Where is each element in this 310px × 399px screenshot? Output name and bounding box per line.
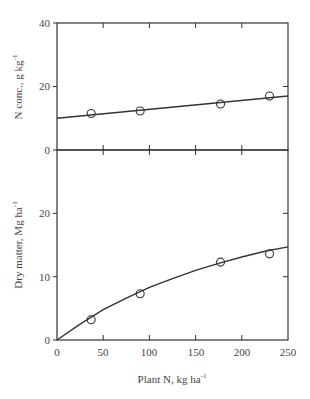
fit-line xyxy=(57,247,288,340)
upper-plot-frame xyxy=(57,23,288,150)
upper-ytick-20: 20 xyxy=(39,80,51,92)
x-axis-title: Plant N, kg ha-1 xyxy=(138,372,207,385)
xtick-200: 200 xyxy=(234,346,251,358)
xtick-100: 100 xyxy=(141,346,158,358)
upper-y-axis-title: N conc., g kg-1 xyxy=(11,54,24,119)
xtick-250: 250 xyxy=(280,346,297,358)
upper-ytick-0: 0 xyxy=(45,144,51,156)
data-point-circle xyxy=(217,100,225,108)
upper-data-series xyxy=(57,92,288,118)
data-point-circle xyxy=(266,92,274,100)
lower-ytick-20: 20 xyxy=(39,207,51,219)
data-point-circle xyxy=(87,109,95,117)
xtick-150: 150 xyxy=(188,346,205,358)
lower-ytick-10: 10 xyxy=(39,271,51,283)
axis-ticks xyxy=(53,23,288,340)
fit-line xyxy=(57,96,288,118)
chart-canvas: 0 20 40 0 10 20 0 50 100 150 200 250 Pla… xyxy=(0,0,310,399)
upper-ytick-40: 40 xyxy=(39,17,51,29)
lower-ytick-0: 0 xyxy=(45,334,51,346)
xtick-0: 0 xyxy=(54,346,60,358)
lower-y-axis-title: Dry matter, Mg ha-1 xyxy=(11,201,24,289)
lower-data-series xyxy=(57,247,288,340)
xtick-50: 50 xyxy=(98,346,110,358)
lower-plot-frame xyxy=(57,150,288,340)
